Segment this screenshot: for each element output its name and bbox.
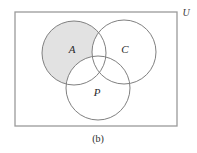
shaded-region-a-only [0, 0, 197, 153]
venn-diagram-figure: A C P U (b) [0, 0, 197, 153]
set-label-a: A [68, 43, 76, 55]
set-label-p: P [93, 86, 101, 98]
figure-caption: (b) [92, 133, 104, 145]
universal-set-label: U [182, 7, 190, 18]
venn-diagram-svg: A C P U (b) [0, 0, 197, 153]
set-label-c: C [121, 43, 129, 55]
